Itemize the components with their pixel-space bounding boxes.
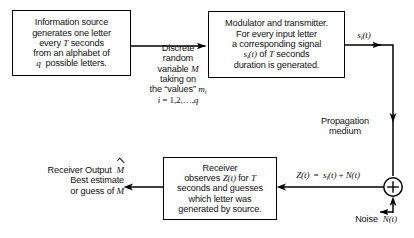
receiver-block[interactable]: Receiver observes Z(t) for T seconds and… bbox=[163, 157, 277, 220]
propagation-line-2: medium bbox=[329, 126, 361, 136]
noise-label: Noise N(t) bbox=[342, 214, 410, 224]
summing-junction-symbol bbox=[384, 178, 402, 196]
receiver-line-5: generated by source. bbox=[178, 204, 261, 214]
drv-line-1: Discrete bbox=[162, 43, 195, 53]
propagation-medium-label: Propagation medium bbox=[300, 116, 390, 137]
received-signal-label: Z(t) = si(t) + N(t) bbox=[272, 170, 384, 181]
modulator-line-2: For every input letter bbox=[236, 29, 317, 39]
receiver-line-1: Receiver bbox=[202, 163, 237, 173]
propagation-line-1: Propagation bbox=[321, 116, 369, 126]
modulator-transmitter-text: Modulator and transmitter. For every inp… bbox=[222, 18, 331, 70]
arrow-receiver-to-output bbox=[124, 184, 164, 191]
output-line-2: Best estimate bbox=[8, 175, 124, 185]
modulator-line-1: Modulator and transmitter. bbox=[225, 18, 328, 28]
arrow-modulator-to-channel bbox=[345, 45, 396, 176]
receiver-line-3: seconds and guesses bbox=[177, 183, 263, 193]
discrete-random-variable-label: Discrete random variable M taking on the… bbox=[128, 43, 228, 106]
modulator-line-5: duration is generated. bbox=[234, 60, 320, 70]
source-line-4: from an alphabet of bbox=[33, 48, 109, 58]
drv-line-2: random bbox=[163, 53, 193, 63]
arrow-adder-to-receiver bbox=[277, 184, 384, 191]
information-source-block[interactable]: Information source generates one letter … bbox=[12, 10, 131, 76]
information-source-text: Information source generates one letter … bbox=[29, 17, 114, 68]
arrow-noise-into-adder bbox=[380, 197, 396, 214]
receiver-line-4: which letter was bbox=[189, 194, 252, 204]
modulator-line-3: a corresponding signal bbox=[232, 39, 321, 49]
source-line-2: generates one letter bbox=[32, 28, 111, 38]
transmitted-signal-label: si(t) bbox=[347, 30, 381, 41]
receiver-text: Receiver observes Z(t) for T seconds and… bbox=[174, 163, 266, 214]
block-diagram-canvas: Information source generates one letter … bbox=[0, 0, 414, 238]
modulator-transmitter-block[interactable]: Modulator and transmitter. For every inp… bbox=[208, 11, 345, 78]
receiver-output-label: Receiver Output M Best estimate or guess… bbox=[8, 163, 124, 196]
output-line-1: Receiver Output M bbox=[48, 165, 124, 175]
drv-line-4: taking on bbox=[160, 74, 196, 84]
source-line-1: Information source bbox=[35, 17, 108, 27]
output-line-3: or guess of M bbox=[8, 186, 124, 196]
